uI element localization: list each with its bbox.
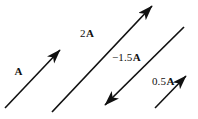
vector-label-2a-coefficient: 2 — [80, 27, 86, 39]
vector-label-2a-symbol: A — [86, 27, 95, 39]
vector-label-0-5a-symbol: A — [166, 75, 175, 87]
vector-label-0-5a: 0.5A — [152, 76, 175, 87]
vector-label-2a: 2A — [80, 28, 94, 39]
vector-label-neg-1-5a-symbol: A — [132, 51, 141, 63]
vector-label-a-symbol: A — [14, 65, 23, 77]
vector-arrow-neg-1-5a — [105, 27, 184, 105]
vector-label-neg-1-5a: −1.5A — [112, 52, 141, 63]
vector-label-0-5a-coefficient: 0.5 — [152, 75, 166, 87]
vector-arrow-a — [5, 50, 60, 108]
vector-canvas — [0, 0, 198, 119]
vector-diagram-figure: A 2A −1.5A 0.5A — [0, 0, 198, 119]
vector-label-a: A — [14, 66, 23, 77]
vector-label-neg-1-5a-coefficient: −1.5 — [112, 51, 132, 63]
